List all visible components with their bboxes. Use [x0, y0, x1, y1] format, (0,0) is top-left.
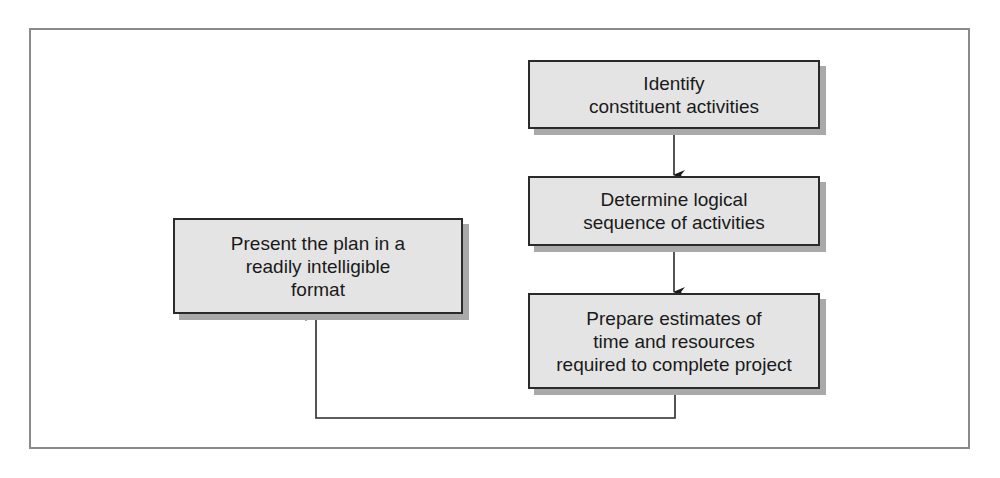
- node-determine-sequence: Determine logical sequence of activities: [528, 176, 820, 246]
- node-prepare-estimates: Prepare estimates of time and resources …: [528, 293, 820, 389]
- node-identify-activities: Identify constituent activities: [528, 60, 820, 129]
- node-present-plan: Present the plan in a readily intelligib…: [173, 218, 463, 314]
- node-label: Present the plan in a readily intelligib…: [231, 232, 405, 301]
- node-label: Determine logical sequence of activities: [583, 188, 765, 234]
- node-label: Identify constituent activities: [589, 72, 759, 118]
- node-label: Prepare estimates of time and resources …: [556, 307, 792, 376]
- diagram-frame: [29, 28, 970, 449]
